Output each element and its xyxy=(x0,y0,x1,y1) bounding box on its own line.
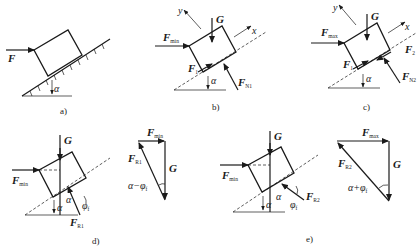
friction1-label: F1 xyxy=(342,58,353,71)
gravity-label: G xyxy=(64,134,72,146)
push-label: Fmin xyxy=(221,169,238,182)
friction-angle-label: φf xyxy=(290,199,298,211)
reaction-label: FR1 xyxy=(69,216,84,229)
caption-b: b) xyxy=(212,102,220,112)
panel-b: y x G Fmin F1 FN1 α b) xyxy=(155,5,266,112)
incline-surface xyxy=(22,39,110,96)
block xyxy=(248,147,294,192)
y-axis-arrow xyxy=(339,5,356,25)
incline-dashed xyxy=(25,158,110,215)
reaction-label: FR2 xyxy=(305,190,320,203)
triangle-angle-arc xyxy=(379,185,388,188)
friction-label: F1 xyxy=(187,62,198,75)
angle-alpha-label: α xyxy=(366,73,372,84)
angle-alpha-2: α xyxy=(276,191,282,202)
caption-a: a) xyxy=(60,106,67,116)
normal-label: FN2 xyxy=(401,70,416,83)
angle-alpha-label: α xyxy=(211,75,217,86)
normal-label: FN1 xyxy=(237,76,252,89)
triangle-angle-arc xyxy=(159,184,165,185)
normal-arrow xyxy=(384,58,400,83)
caption-e: e) xyxy=(306,234,313,244)
x-axis-label: x xyxy=(251,25,257,36)
triangle-top-label: Fmin xyxy=(146,126,163,139)
push-label: Fmin xyxy=(11,174,28,187)
triangle-side-label: FR2 xyxy=(337,157,352,170)
normal-arrow xyxy=(224,64,238,90)
triangle-vertical-label: G xyxy=(169,162,177,174)
push-label: Fmin xyxy=(162,31,179,44)
reaction-arrow xyxy=(282,184,304,200)
angle-alpha-1: α xyxy=(266,199,272,210)
angle-alpha-label: α xyxy=(54,83,60,94)
angle-alpha-1: α xyxy=(57,202,63,213)
block xyxy=(34,30,82,76)
triangle-angle-label: α−φf xyxy=(128,180,148,192)
block xyxy=(39,152,86,197)
triangle-side-label: FR1 xyxy=(127,152,142,165)
gravity-label: G xyxy=(274,130,282,142)
x-axis-arrow xyxy=(234,26,251,37)
x-axis-arrow xyxy=(388,22,405,33)
caption-d: d) xyxy=(92,236,100,246)
triangle-angle-label: α+φf xyxy=(348,182,368,194)
incline-hatching xyxy=(30,44,104,96)
angle-alpha-2: α xyxy=(66,194,72,205)
friction-angle-arc xyxy=(296,186,298,194)
triangle-vertical-label: G xyxy=(393,158,401,170)
friction-angle-label: φf xyxy=(82,200,90,212)
inclined-plane-diagram: F α a) y x G Fmin F1 FN1 α b) y x G xyxy=(0,0,418,249)
caption-c: c) xyxy=(363,102,370,112)
force-triangle-e: Fmax FR2 G α+φf xyxy=(337,126,401,201)
triangle-side-arrow xyxy=(139,143,165,200)
panel-a: F α a) xyxy=(6,30,110,116)
y-axis-label: y xyxy=(332,2,338,13)
panel-d: G Fmin FR1 α α φf d) Fmin FR1 G α−φf xyxy=(11,126,177,246)
gravity-label: G xyxy=(216,13,224,25)
gravity-label: G xyxy=(371,10,379,22)
y-axis-arrow xyxy=(184,10,201,29)
panel-c: y x G Fmax F1 F2 FN2 α c) xyxy=(311,2,416,112)
force-triangle-d: Fmin FR1 G α−φf xyxy=(127,126,177,200)
x-axis-label: x xyxy=(404,21,410,32)
panel-e: G Fmin FR2 α α φf e) Fmax FR2 G α+φf xyxy=(220,126,401,244)
push-label: Fmax xyxy=(320,26,338,39)
force-F-label: F xyxy=(7,52,16,64)
friction2-label: F2 xyxy=(404,43,415,56)
y-axis-label: y xyxy=(177,5,183,16)
triangle-top-label: Fmax xyxy=(361,126,379,139)
